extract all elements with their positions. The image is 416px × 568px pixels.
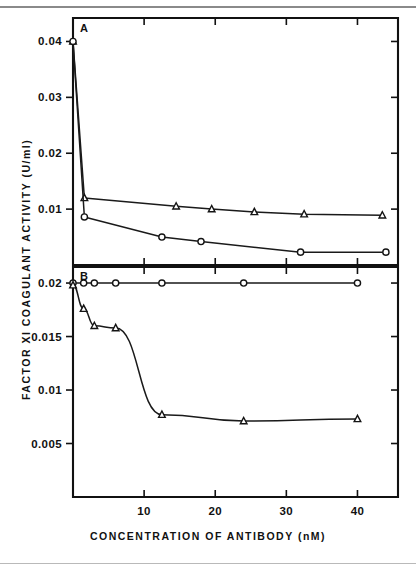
top-divider-rule xyxy=(0,6,416,8)
y-tick-label: 0.02 xyxy=(38,277,62,289)
panel-b-series xyxy=(70,280,361,424)
circle-series-A-line xyxy=(73,41,386,252)
circle-data-point xyxy=(70,38,76,44)
panel-b-axes xyxy=(66,267,398,497)
panel-a-y-tick-labels: 0.010.020.030.04 xyxy=(38,35,62,215)
y-tick-label: 0.01 xyxy=(38,384,62,396)
triangle-data-point xyxy=(354,415,361,421)
panel-a-axes xyxy=(66,18,398,265)
triangle-data-point xyxy=(240,417,247,423)
panel-b-y-tick-labels: 0.0050.010.0150.02 xyxy=(31,277,62,449)
circle-data-point xyxy=(91,280,97,286)
circle-data-point xyxy=(354,280,360,286)
triangle-data-point xyxy=(251,208,258,214)
circle-data-point xyxy=(113,280,119,286)
circle-data-point xyxy=(241,280,247,286)
triangle-series-B-line xyxy=(73,285,357,421)
y-tick-label: 0.005 xyxy=(31,438,62,450)
panel-b-x-tick-labels: 10203040 xyxy=(137,505,364,517)
circle-data-point xyxy=(159,234,165,240)
triangle-data-point xyxy=(173,203,180,209)
panel-a-label: A xyxy=(80,22,88,34)
y-tick-label: 0.03 xyxy=(38,91,62,103)
triangle-series-A-line xyxy=(73,41,382,215)
x-tick-label: 40 xyxy=(351,505,365,517)
y-tick-label: 0.01 xyxy=(38,203,62,215)
y-tick-label: 0.02 xyxy=(38,147,62,159)
x-axis-title: CONCENTRATION OF ANTIBODY (nM) xyxy=(90,530,326,542)
triangle-data-point xyxy=(301,211,308,217)
y-tick-label: 0.04 xyxy=(38,35,62,47)
triangle-data-point xyxy=(379,212,386,218)
panel-a-series xyxy=(70,38,389,255)
x-tick-label: 20 xyxy=(208,505,222,517)
y-tick-label: 0.015 xyxy=(31,331,62,343)
triangle-data-point xyxy=(159,411,166,417)
triangle-data-point xyxy=(208,206,215,212)
circle-data-point xyxy=(297,249,303,255)
triangle-data-point xyxy=(81,194,88,200)
two-panel-plot: A 0.010.020.030.04 B 0.0050.010.0150.02 … xyxy=(0,0,416,568)
x-tick-label: 30 xyxy=(280,505,294,517)
figure-container: A 0.010.020.030.04 B 0.0050.010.0150.02 … xyxy=(0,0,416,568)
panel-b-label: B xyxy=(80,270,88,282)
triangle-data-point xyxy=(112,324,119,330)
circle-data-point xyxy=(198,238,204,244)
circle-data-point xyxy=(383,249,389,255)
bottom-divider-rule xyxy=(0,563,416,564)
circle-data-point xyxy=(81,214,87,220)
x-tick-label: 10 xyxy=(137,505,151,517)
circle-data-point xyxy=(159,280,165,286)
y-axis-title: FACTOR XI COAGULANT ACTIVITY (U/ml) xyxy=(20,139,32,400)
